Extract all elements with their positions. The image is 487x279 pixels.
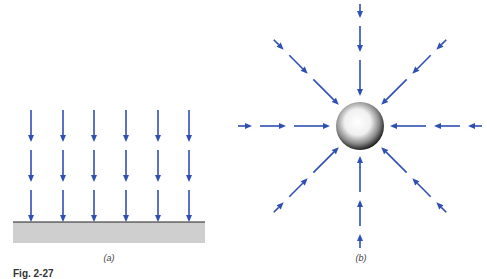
field-arrow <box>274 202 284 212</box>
field-arrow <box>436 202 446 212</box>
charged-sphere <box>336 102 384 150</box>
panel-b-label: (b) <box>356 253 367 263</box>
field-arrow <box>357 200 363 226</box>
field-arrow <box>123 110 129 142</box>
panel-a-uniform-field <box>13 110 205 243</box>
field-arrow <box>294 123 330 129</box>
field-arrow <box>436 40 446 50</box>
panel-b-radial-field <box>238 4 482 248</box>
field-arrow <box>60 190 66 222</box>
field-arrow <box>434 123 460 129</box>
field-arrow <box>289 178 307 196</box>
field-arrow <box>91 150 97 182</box>
field-arrow <box>186 150 192 182</box>
field-arrow <box>412 55 430 73</box>
field-arrow <box>186 110 192 142</box>
field-arrow <box>468 123 482 129</box>
field-arrow <box>390 123 426 129</box>
field-arrow <box>357 156 363 192</box>
field-arrow <box>381 147 406 172</box>
field-arrow <box>123 190 129 222</box>
field-arrow <box>357 4 363 18</box>
field-arrow <box>91 110 97 142</box>
field-arrow <box>123 150 129 182</box>
field-arrow <box>60 150 66 182</box>
field-arrow <box>28 150 34 182</box>
field-arrow <box>357 60 363 96</box>
field-arrow <box>186 190 192 222</box>
field-arrow <box>91 190 97 222</box>
field-arrow <box>357 26 363 52</box>
field-arrow <box>155 150 161 182</box>
field-arrow <box>155 190 161 222</box>
field-arrow <box>289 55 307 73</box>
field-arrow <box>313 79 338 104</box>
field-arrow <box>260 123 286 129</box>
field-arrow <box>412 178 430 196</box>
field-arrow <box>238 123 252 129</box>
panel-a-label: (a) <box>104 253 115 263</box>
field-arrow <box>155 110 161 142</box>
field-arrow <box>313 147 338 172</box>
ground-surface <box>13 222 205 243</box>
field-arrow <box>357 234 363 248</box>
field-arrow <box>60 110 66 142</box>
field-arrow <box>381 79 406 104</box>
figure-caption: Fig. 2-27 <box>13 268 54 279</box>
field-arrow <box>28 110 34 142</box>
field-arrow <box>28 190 34 222</box>
field-arrow <box>274 40 284 50</box>
